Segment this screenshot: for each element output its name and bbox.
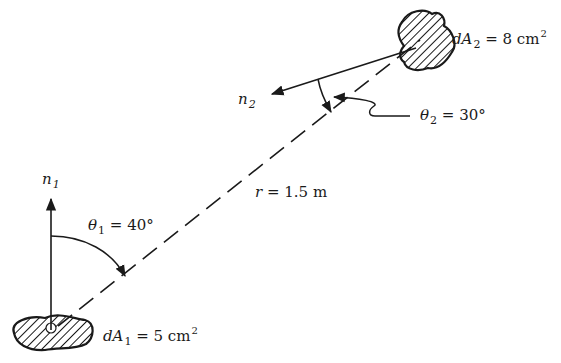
distance-label: r = 1.5 m [255,185,327,200]
theta-2-arc [318,79,331,112]
view-factor-diagram [0,0,561,363]
surface-2-blob [398,11,454,70]
distance-dashed-line [58,40,420,326]
normal-1-label: n1 [42,172,60,187]
theta-2-label: θ2 = 30° [420,108,486,123]
theta-1-arc [51,236,125,276]
surface-2-label: dA2 = 8 cm2 [452,32,547,47]
surface-1-label: dA1 = 5 cm2 [103,329,198,344]
normal-2-arrow [272,48,416,94]
normal-2-label: n2 [238,92,256,107]
theta-1-label: θ1 = 40° [88,218,154,233]
